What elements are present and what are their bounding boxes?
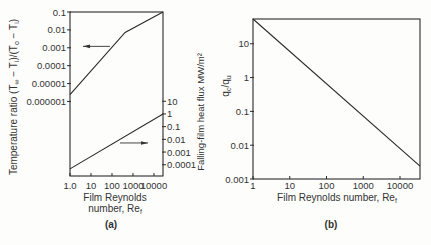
y-tick-label: 0.0001 [167,159,196,170]
y-tick-label: 1 [167,108,172,119]
arrow-right-icon [141,141,148,145]
y-axis-label: qc/qu [220,75,232,96]
y-tick-label: 0.001 [225,174,249,185]
panel-label-a: (a) [105,219,117,230]
x-tick-label: 10 [284,180,295,191]
label-text: Temperature ratio (T [8,84,19,175]
y-tick-label: 0.1 [236,106,249,117]
x-tick-label: 1000 [353,180,374,191]
panel-a: 0.10.010.0010.00010.000010.000001 1010.1… [8,7,206,231]
panel-b: 1010.10.010.001 110100100010000 qc/qu Fi… [220,19,420,230]
left-y-axis-ticks: 0.10.010.0010.00010.000010.000001 [26,7,71,107]
y-tick-label: 0.001 [42,42,66,53]
label-text: )/(T [8,45,19,61]
y-tick-label: 0.0001 [37,60,66,71]
x-tick-label: 100 [104,180,120,191]
x-axis-label-subscript: f [140,208,142,215]
y-tick-label: 1 [244,72,249,83]
y-tick-label: 0.1 [53,7,66,18]
axis-arrows [83,45,148,145]
x-tick-label: 10000 [141,180,167,191]
x-axis-label-subscript: f [395,197,397,204]
arrow-left-icon [83,45,90,49]
plot-frame-a [70,12,163,176]
y-tick-label: 0.001 [167,147,191,158]
y-tick-label: 0.01 [48,24,67,35]
y-tick-label: 10 [238,38,249,49]
label-text: ) [8,19,19,22]
plot-frame-b [253,19,420,179]
x-tick-label: 1 [250,180,255,191]
x-axis-label: Film Reynolds number, Ref [277,192,397,204]
y-tick-label: 0.000001 [26,96,66,107]
x-axis-label-text: number, Re [88,203,140,214]
panel-label-b: (b) [325,219,338,230]
label-text: /q [220,79,231,87]
series-group [253,19,420,166]
y-tick-label: 0.01 [167,134,186,145]
y-left-axis-label: Temperature ratio (T∞ − Ti)/(To − Ti) [8,19,20,175]
figure: 0.10.010.0010.00010.000010.000001 1010.1… [0,0,431,245]
series-group [70,12,163,169]
x-axis-label-line-2: number, Ref [88,203,142,215]
series-line [253,19,420,166]
label-text: − T [8,62,19,79]
x-tick-label: 10000 [387,180,413,191]
x-axis-ticks: 110100100010000 [250,176,413,191]
x-tick-label: 1.0 [63,180,76,191]
x-axis-label-text: Film Reynolds number, Re [277,192,395,203]
y-tick-label: 0.00001 [32,78,66,89]
label-text: − T [8,24,19,41]
y-tick-label: 0.01 [231,140,250,151]
y-axis-ticks: 1010.10.010.001 [225,38,254,184]
y-tick-label: 10 [167,96,178,107]
label-subscript: u [225,75,232,79]
series-line [70,12,163,95]
series-line [70,114,163,169]
y-right-axis-label: Falling-film heat flux MW/m² [195,53,206,171]
x-tick-label: 10 [86,180,97,191]
x-tick-label: 100 [319,180,335,191]
y-tick-label: 0.1 [167,121,180,132]
right-y-axis-ticks: 1010.10.010.0010.0001 [162,96,196,170]
x-axis-label-line-1: Film Reynolds [83,192,146,203]
